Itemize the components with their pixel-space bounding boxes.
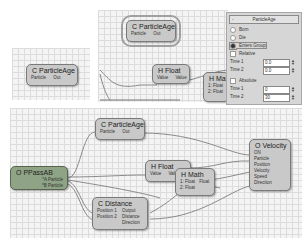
ppassab-node[interactable]: O PPassAB *A Particle *B Particle — [10, 166, 68, 190]
port-b-particle[interactable]: *B Particle — [15, 183, 63, 189]
node-title: O PPassAB — [11, 167, 67, 177]
math-node[interactable]: H Math 1: Float 2: Float Float — [175, 168, 215, 196]
node-title: H Math — [176, 169, 214, 179]
port-direction[interactable]: Direction — [122, 220, 140, 226]
node-title: O Velocity — [250, 140, 290, 150]
port-value-in[interactable]: Value — [150, 171, 161, 177]
port-float-2[interactable]: 2: Float — [180, 185, 195, 191]
port-position-2[interactable]: Position 2 — [97, 214, 117, 220]
node-title: C ParticleAge — [96, 119, 144, 129]
distance-node[interactable]: C Distance Position 1 Position 2 Output … — [92, 197, 148, 230]
node-title: C Distance — [93, 198, 147, 208]
port-direction[interactable]: Direction — [254, 180, 286, 186]
port-particle[interactable]: Particle — [100, 129, 115, 135]
velocity-node[interactable]: O Velocity ON Particle Position Velocity… — [249, 139, 291, 191]
main-wires — [0, 0, 308, 249]
port-float-out[interactable]: Float — [199, 179, 209, 185]
port-out[interactable]: Out — [122, 129, 129, 135]
particle-age-node[interactable]: C ParticleAge Particle Out — [95, 118, 145, 140]
